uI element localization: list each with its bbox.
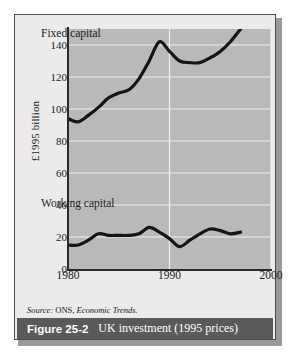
y-tick-label: 120 (33, 71, 67, 83)
data-series (68, 29, 241, 247)
chart-svg (68, 29, 271, 269)
y-tick-label: 140 (33, 39, 67, 51)
figure-number: Figure 25-2 (27, 323, 88, 335)
y-axis-tick-labels: 020406080100120140 (31, 15, 67, 299)
x-tick-label: 1990 (158, 269, 181, 281)
series-label-fixed-capital: Fixed capital (41, 27, 101, 39)
figure-panel: £1995 billion 020406080100120140 1980199… (14, 14, 276, 340)
source-publication: Economic Trends. (77, 305, 138, 315)
plot-region (68, 29, 271, 269)
figure-title: UK investment (1995 prices) (98, 321, 238, 336)
series-line-fixed-capital (68, 29, 241, 122)
x-tick-label: 1980 (57, 269, 80, 281)
y-tick-label: 80 (33, 135, 67, 147)
figure-container: £1995 billion 020406080100120140 1980199… (14, 14, 282, 346)
y-tick-label: 20 (33, 231, 67, 243)
chart-area: £1995 billion 020406080100120140 1980199… (15, 15, 275, 299)
y-axis-line (67, 27, 69, 271)
y-tick-label: 100 (33, 103, 67, 115)
source-note: Source: ONS, Economic Trends. (27, 305, 138, 315)
caption-bar: Figure 25-2 UK investment (1995 prices) (17, 318, 273, 339)
source-prefix: Source: (27, 305, 53, 315)
x-tick-label: 2000 (260, 269, 283, 281)
y-tick-label: 60 (33, 167, 67, 179)
source-organisation: ONS, (53, 305, 76, 315)
series-label-working-capital: Working capital (41, 197, 114, 209)
